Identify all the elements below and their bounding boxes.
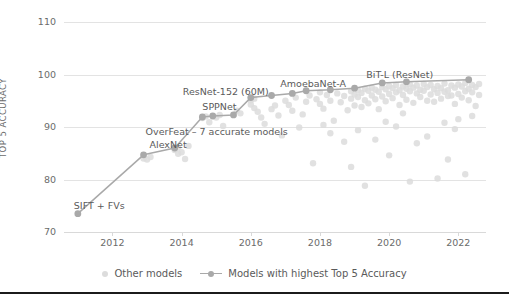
legend-line-dot-icon — [200, 270, 222, 277]
y-tick-label: 110 — [22, 17, 56, 27]
x-tick-label: 2020 — [366, 238, 412, 248]
x-tickmark — [320, 232, 321, 236]
y-tick-label: 100 — [22, 70, 56, 80]
legend-dot-icon — [102, 271, 108, 277]
model-label: OverFeat – 7 accurate models — [146, 126, 288, 137]
model-label: BiT-L (ResNet) — [366, 69, 433, 80]
legend-item[interactable]: Models with highest Top 5 Accuracy — [200, 268, 406, 279]
legend-label: Models with highest Top 5 Accuracy — [228, 268, 406, 279]
model-label: SPPNet — [202, 101, 236, 112]
x-tickmark — [251, 232, 252, 236]
y-tick-label: 90 — [22, 122, 56, 132]
gridline — [64, 22, 486, 23]
x-tickmark — [182, 232, 183, 236]
bottom-rule — [0, 292, 509, 294]
model-label: AlexNet — [150, 139, 187, 150]
model-label: AmoebaNet-A — [280, 78, 346, 89]
legend-item[interactable]: Other models — [102, 268, 182, 279]
y-tick-label: 70 — [22, 227, 56, 237]
y-axis-title: TOP 5 ACCURACY — [0, 78, 8, 158]
x-axis-line — [64, 232, 486, 233]
x-tick-label: 2012 — [89, 238, 135, 248]
x-tick-label: 2016 — [228, 238, 274, 248]
x-tickmark — [389, 232, 390, 236]
chart-figure: TOP 5 ACCURACY 708090100110 201220142016… — [0, 0, 509, 304]
legend-label: Other models — [114, 268, 182, 279]
gridline — [64, 180, 486, 181]
x-tick-label: 2014 — [159, 238, 205, 248]
chart-legend: Other modelsModels with highest Top 5 Ac… — [0, 268, 509, 279]
x-tickmark — [112, 232, 113, 236]
x-tickmark — [458, 232, 459, 236]
model-label: SIFT + FVs — [74, 200, 125, 211]
x-tick-label: 2022 — [435, 238, 481, 248]
x-tick-label: 2018 — [297, 238, 343, 248]
model-label: ResNet-152 (60M) — [183, 86, 269, 97]
y-tick-label: 80 — [22, 175, 56, 185]
